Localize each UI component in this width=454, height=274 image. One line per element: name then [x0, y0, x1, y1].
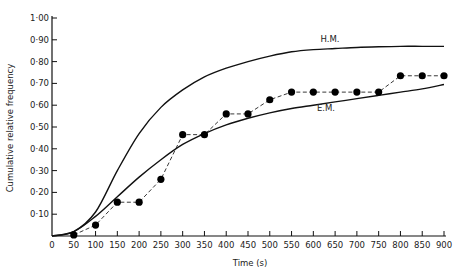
x-tick-label: 700 [349, 240, 365, 250]
data-point [70, 231, 77, 238]
data-point [419, 72, 426, 79]
y-tick-label: 0·80 [30, 57, 49, 67]
x-tick-label: 400 [218, 240, 234, 250]
x-tick-label: 300 [175, 240, 191, 250]
x-tick-label: 200 [131, 240, 147, 250]
y-tick-label: 0·90 [30, 35, 49, 45]
curve-label-hm: H.M. [321, 34, 340, 44]
y-tick-label: 0·40 [30, 144, 49, 154]
data-point [223, 110, 230, 117]
x-tick-label: 500 [262, 240, 278, 250]
data-point [397, 72, 404, 79]
x-tick-label: 250 [153, 240, 169, 250]
observed-line [74, 76, 444, 235]
curve-label-em: E.M. [317, 103, 335, 113]
x-tick-label: 850 [414, 240, 430, 250]
y-tick-label: 0·70 [30, 78, 49, 88]
data-point [157, 176, 164, 183]
data-point [114, 199, 121, 206]
data-point [136, 199, 143, 206]
data-point [353, 89, 360, 96]
x-tick-label: 100 [87, 240, 103, 250]
y-tick-label: 0·20 [30, 187, 49, 197]
y-tick-label: 0·30 [30, 166, 49, 176]
x-axis-title: Time (s) [232, 258, 268, 268]
x-tick-label: 450 [240, 240, 256, 250]
y-axis-title: Cumulative relative frequency [5, 64, 15, 193]
data-point [244, 110, 251, 117]
chart: 0501001502002503003504004505005506006507… [0, 0, 454, 274]
em-curve [52, 84, 444, 236]
data-point [266, 96, 273, 103]
hm-curve [52, 46, 444, 236]
y-tick-label: 1·00 [30, 13, 49, 23]
y-tick-label: 0·60 [30, 100, 49, 110]
x-tick-label: 750 [371, 240, 387, 250]
data-point [201, 131, 208, 138]
x-tick-label: 50 [68, 240, 79, 250]
x-tick-label: 800 [392, 240, 408, 250]
data-point [92, 222, 99, 229]
data-point [179, 131, 186, 138]
x-tick-label: 150 [109, 240, 125, 250]
data-point [332, 89, 339, 96]
data-markers [70, 72, 447, 238]
data-point [288, 89, 295, 96]
x-tick-label: 350 [196, 240, 212, 250]
y-tick-label: 0·50 [30, 122, 49, 132]
curves [52, 46, 444, 236]
x-tick-label: 900 [436, 240, 452, 250]
y-tick-label: 0·10 [30, 209, 49, 219]
x-tick-label: 0 [49, 240, 54, 250]
x-tick-label: 550 [283, 240, 299, 250]
x-tick-label: 650 [327, 240, 343, 250]
data-point [440, 72, 447, 79]
data-point [310, 89, 317, 96]
data-point [375, 89, 382, 96]
x-tick-label: 600 [305, 240, 321, 250]
